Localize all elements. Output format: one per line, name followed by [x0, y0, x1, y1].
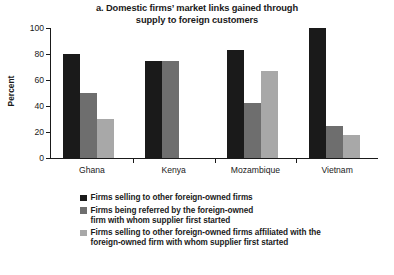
y-axis-tick-labels: 020406080100: [22, 28, 44, 158]
legend-item[interactable]: Firms selling to other foreign-owned fir…: [80, 228, 390, 248]
y-axis-tick-label: 100: [22, 24, 44, 33]
chart-title-line-2: supply to foreign customers: [0, 15, 394, 27]
legend-label: Firms selling to other foreign-owned fir…: [91, 228, 321, 248]
bars-canvas: [51, 28, 378, 158]
x-axis-separator-tick: [296, 159, 297, 163]
bar[interactable]: [244, 103, 261, 158]
legend-item[interactable]: Firms selling to other foreign-owned fir…: [80, 193, 390, 203]
y-axis-tick-label: 40: [22, 102, 44, 111]
x-axis-category-labels: GhanaKenyaMozambiqueVietnam: [51, 165, 378, 179]
legend-swatch-icon: [80, 195, 87, 202]
y-axis-tick-label: 60: [22, 76, 44, 85]
bar-group: [227, 28, 278, 158]
bar[interactable]: [227, 50, 244, 158]
x-axis-category-label: Ghana: [51, 165, 133, 175]
y-axis-tick-label: 80: [22, 50, 44, 59]
x-axis-category-label: Vietnam: [296, 165, 378, 175]
bar[interactable]: [145, 61, 162, 159]
x-axis-category-label: Kenya: [133, 165, 215, 175]
chart-title-line-1: a. Domestic firms’ market links gained t…: [0, 3, 394, 15]
chart-legend: Firms selling to other foreign-owned fir…: [80, 193, 390, 251]
legend-swatch-icon: [80, 230, 87, 237]
bar-group: [145, 28, 196, 158]
legend-swatch-icon: [80, 207, 87, 214]
bar[interactable]: [63, 54, 80, 158]
legend-label: Firms being referred by the foreign-owne…: [91, 206, 254, 226]
x-axis-category-label: Mozambique: [215, 165, 297, 175]
y-axis-tick-label: 20: [22, 128, 44, 137]
bar[interactable]: [326, 126, 343, 159]
y-axis-label: Percent: [6, 61, 16, 121]
bar[interactable]: [261, 71, 278, 158]
bar-group: [309, 28, 360, 158]
bar[interactable]: [162, 61, 179, 159]
x-axis-separator-tick: [215, 159, 216, 163]
y-axis-tick-label: 0: [22, 154, 44, 163]
x-axis-separator-tick: [133, 159, 134, 163]
plot-area: Percent 020406080100 GhanaKenyaMozambiqu…: [0, 28, 394, 190]
bar[interactable]: [80, 93, 97, 158]
chart-title: a. Domestic firms’ market links gained t…: [0, 0, 394, 26]
bar[interactable]: [343, 135, 360, 158]
legend-item[interactable]: Firms being referred by the foreign-owne…: [80, 206, 390, 226]
bar[interactable]: [309, 28, 326, 158]
bar-group: [63, 28, 114, 158]
legend-label: Firms selling to other foreign-owned fir…: [91, 193, 253, 203]
bar[interactable]: [97, 119, 114, 158]
